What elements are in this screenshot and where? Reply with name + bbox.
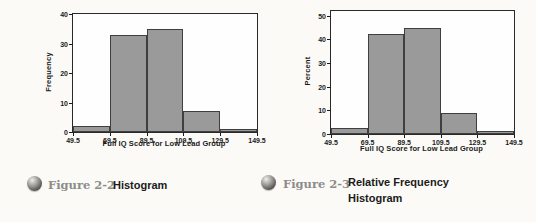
y-tick-mark [327,63,331,64]
figure-title-line: Histogram [348,190,449,206]
y-tick-label: 50 [318,12,326,19]
plot-area: 0102030405049.569.589.5109.5129.5149.5 [330,10,515,135]
y-tick-label: 10 [318,107,326,114]
y-tick-mark [327,39,331,40]
plot-area: 01020304049.569.589.5109.5129.5149.5 [72,13,258,133]
figure-title: Relative Frequency Histogram [348,174,449,206]
x-tick-mark [110,133,111,136]
x-tick-mark [73,133,74,136]
y-axis-title: Frequency [44,52,53,92]
y-tick-label: 0 [322,131,326,138]
x-tick-mark [220,133,221,136]
y-tick-mark [69,103,73,104]
histogram-bar [220,129,257,132]
y-tick-label: 30 [60,40,68,47]
y-tick-mark [327,16,331,17]
y-tick-mark [69,44,73,45]
x-axis-title: Full IQ Score for Low Lead Group [330,144,513,153]
y-tick-label: 40 [60,11,68,18]
y-tick-mark [327,87,331,88]
y-tick-mark [69,73,73,74]
histogram-bar [73,126,110,132]
relative-frequency-histogram-chart: Percent 0102030405049.569.589.5109.5129.… [300,10,526,165]
histogram-bar [368,34,405,134]
sphere-icon [261,175,276,190]
x-tick-mark [147,133,148,136]
histogram-bar [441,113,478,134]
x-tick-mark [477,135,478,138]
y-tick-label: 20 [318,83,326,90]
x-tick-mark [514,135,515,138]
x-tick-mark [368,135,369,138]
histogram-bar [183,111,220,132]
figure-title-line: Histogram [113,177,167,193]
histogram-bar [110,35,147,132]
histogram-bar [331,128,368,134]
x-axis-title: Full IQ Score for Low Lead Group [72,139,256,148]
x-tick-mark [257,133,258,136]
histogram-bar [477,131,514,134]
figure-label: Figure 2-3 [283,177,350,191]
figure-title-line: Relative Frequency [348,174,449,190]
frequency-histogram-chart: Frequency 01020304049.569.589.5109.5129.… [28,13,268,163]
y-tick-label: 0 [64,129,68,136]
x-tick-mark [404,135,405,138]
y-tick-mark [327,110,331,111]
y-tick-label: 30 [318,60,326,67]
y-tick-label: 20 [60,70,68,77]
y-tick-label: 40 [318,36,326,43]
x-tick-mark [331,135,332,138]
histogram-bar [147,29,184,132]
figure-label: Figure 2-2 [48,178,115,192]
y-tick-label: 10 [60,99,68,106]
x-tick-mark [441,135,442,138]
y-axis-title: Percent [303,57,312,86]
sphere-icon [27,176,42,191]
histogram-bar [404,28,441,134]
y-tick-mark [69,14,73,15]
x-tick-mark [183,133,184,136]
figure-title: Histogram [113,177,167,193]
